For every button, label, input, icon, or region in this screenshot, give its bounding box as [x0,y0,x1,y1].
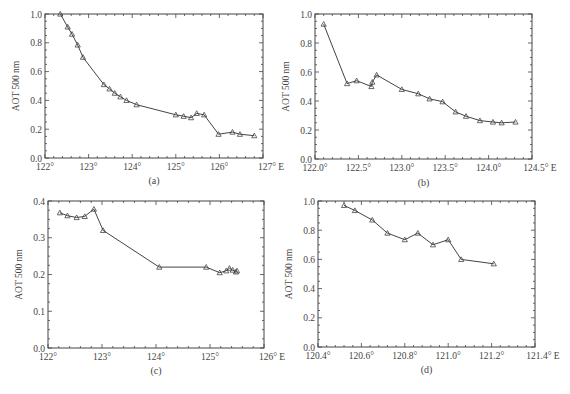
y-tick-label: 0.2 [30,125,42,135]
x-tick-label: 122° [36,162,54,172]
panel-c: 122°123°124°125°126° E0.00.10.20.30.4AOT… [14,197,285,378]
triangle-marker-icon [321,22,326,27]
panel-label: (c) [150,365,161,377]
x-tick-label: 123° [93,352,111,362]
panel-a: 122°123°124°125°126°127° E0.00.20.40.60.… [11,10,284,188]
x-tick-label: 125° [167,162,185,172]
y-tick-label: 0.8 [300,39,312,49]
x-tick-label: 123° [80,162,98,172]
panel-label: (a) [148,175,159,187]
series-line [60,14,254,136]
y-tick-label: 0.4 [300,97,312,107]
series-line [344,205,494,263]
series-line [324,24,516,123]
x-tick-label: 124° [147,352,165,362]
x-tick-label: 126° E [259,352,285,362]
y-tick-label: 0.8 [30,38,42,48]
x-tick-label: 122.5° [346,163,371,173]
y-tick-label: 0.6 [300,68,312,78]
y-tick-label: 0.2 [303,313,315,323]
x-tick-label: 121.2° [479,351,504,361]
y-tick-label: 0.2 [33,270,45,280]
x-tick-label: 122.0° [302,163,327,173]
x-tick-label: 127° E [258,162,284,172]
panel-label: (d) [421,364,433,376]
y-tick-label: 0.4 [33,197,45,207]
plot-frame [315,14,532,159]
y-axis-label: AOT 500 nm [14,249,24,300]
x-tick-label: 125° [201,352,219,362]
y-axis-label: AOT 500 nm [281,61,291,112]
y-axis-label: AOT 500 nm [11,60,21,111]
y-tick-label: 1.0 [30,10,42,20]
panel-b: 122.0°122.5°123.0°123.5°124.0°124.5° E0.… [281,10,557,190]
x-tick-label: 122° [39,352,57,362]
x-tick-label: 126° [210,162,228,172]
x-tick-label: 123.0° [389,163,414,173]
y-tick-label: 0.3 [33,233,45,243]
y-tick-label: 0.1 [33,307,45,317]
y-tick-label: 0.0 [303,343,315,353]
x-tick-label: 121.0° [436,351,461,361]
triangle-marker-icon [341,203,346,208]
x-tick-label: 121.4° E [526,351,560,361]
y-tick-label: 0.4 [303,284,315,294]
y-tick-label: 1.0 [303,197,315,207]
plot-frame [318,201,535,347]
y-tick-label: 0.0 [30,154,42,164]
x-tick-label: 120.4° [305,351,330,361]
y-tick-label: 0.2 [300,126,312,136]
panel-label: (b) [418,177,430,189]
x-tick-label: 124.0° [476,163,501,173]
y-tick-label: 0.4 [30,96,42,106]
figure: 122°123°124°125°126°127° E0.00.20.40.60.… [0,0,570,394]
triangle-marker-icon [57,210,62,215]
y-tick-label: 1.0 [300,10,312,20]
y-tick-label: 0.6 [303,255,315,265]
x-tick-label: 124.5° E [523,163,557,173]
y-tick-label: 0.8 [303,226,315,236]
x-tick-label: 124° [123,162,141,172]
y-axis-label: AOT 500 nm [284,248,294,299]
x-tick-label: 120.6° [349,351,374,361]
y-tick-label: 0.0 [300,155,312,165]
y-tick-label: 0.0 [33,344,45,354]
x-tick-label: 120.8° [392,351,417,361]
x-tick-label: 123.5° [433,163,458,173]
plot-frame [48,201,264,348]
panel-d: 120.4°120.6°120.8°121.0°121.2°121.4° E0.… [284,197,560,377]
plot-frame [45,14,263,158]
y-tick-label: 0.6 [30,67,42,77]
